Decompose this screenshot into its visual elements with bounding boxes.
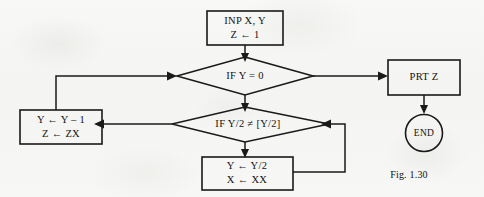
input-box-line2: Z ← 1 — [231, 29, 260, 40]
flowchart-canvas: INP X, Y Z ← 1 IF Y = 0 IF Y/2 ≠ [Y/2] Y… — [0, 0, 484, 197]
connector-decision-y-zero-no-to-decision-y-half — [241, 95, 249, 112]
input-box-line1: INP X, Y — [224, 15, 266, 26]
figure-caption: Fig. 1.30 — [390, 169, 428, 180]
update-odd-line2: Z ← ZX — [42, 128, 80, 139]
node-input-box[interactable]: INP X, Y Z ← 1 — [207, 11, 283, 45]
update-halve-line1: Y ← Y/2 — [227, 160, 267, 171]
connector-update-halve-loop-back-to-decision-y-half — [293, 120, 345, 173]
decision-y-half-label: IF Y/2 ≠ [Y/2] — [215, 118, 280, 129]
connector-decision-y-half-to-update-odd — [94, 120, 172, 129]
update-odd-line1: Y ← Y – 1 — [37, 114, 85, 125]
decision-y-zero-label: IF Y = 0 — [226, 70, 264, 81]
node-decision-y-zero[interactable]: IF Y = 0 — [177, 57, 313, 95]
node-end-terminator[interactable]: END — [406, 115, 443, 152]
node-update-odd-box[interactable]: Y ← Y – 1 Z ← ZX — [20, 110, 102, 144]
connector-decision-y-zero-yes-to-print — [313, 72, 388, 81]
update-halve-line2: X ← XX — [227, 174, 267, 185]
end-terminator-label: END — [414, 128, 434, 138]
connector-input-to-decision-y-zero — [241, 45, 249, 62]
flowchart-figure: INP X, Y Z ← 1 IF Y = 0 IF Y/2 ≠ [Y/2] Y… — [0, 0, 484, 197]
node-update-halve-box[interactable]: Y ← Y/2 X ← XX — [202, 157, 293, 190]
connector-print-to-end — [420, 95, 428, 114]
connector-decision-y-half-to-update-halve — [241, 142, 249, 158]
connector-update-odd-loop-back-to-decision-y-zero — [56, 72, 177, 111]
print-box-label: PRT Z — [410, 71, 439, 82]
node-print-box[interactable]: PRT Z — [388, 60, 460, 95]
node-decision-y-half[interactable]: IF Y/2 ≠ [Y/2] — [172, 107, 329, 142]
